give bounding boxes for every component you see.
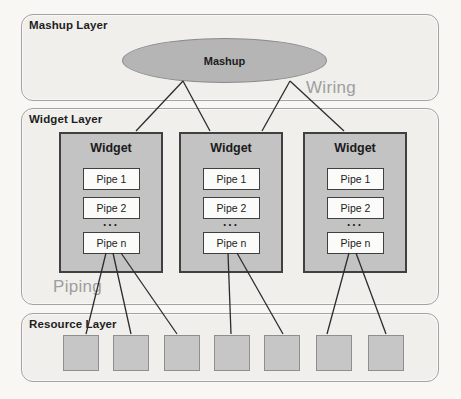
resource-node-6 [316, 335, 352, 371]
mashup-architecture-diagram: Mashup Layer Mashup Wiring Widget Layer … [0, 0, 461, 399]
mashup-layer-label: Mashup Layer [29, 19, 108, 31]
resource-layer: Resource Layer [21, 313, 439, 382]
widget-box-2: Widget Pipe 1 Pipe 2 ... Pipe n [179, 132, 283, 273]
mashup-layer: Mashup Layer Mashup Wiring [21, 14, 439, 101]
resource-layer-label: Resource Layer [29, 318, 117, 330]
resource-node-7 [368, 335, 404, 371]
resource-node-2 [113, 335, 149, 371]
widget-2-pipe-n: Pipe n [203, 232, 260, 254]
piping-annotation: Piping [53, 277, 102, 297]
widget-layer: Widget Layer Widget Pipe 1 Pipe 2 ... Pi… [21, 108, 439, 305]
widget-3-label: Widget [305, 141, 405, 155]
widget-box-1: Widget Pipe 1 Pipe 2 ... Pipe n [59, 132, 163, 273]
widget-2-pipe-1: Pipe 1 [203, 168, 260, 190]
widget-2-label: Widget [181, 141, 281, 155]
widget-2-pipe-ellipsis: ... [181, 215, 281, 229]
widget-3-pipe-ellipsis: ... [305, 215, 405, 229]
widget-box-3: Widget Pipe 1 Pipe 2 ... Pipe n [303, 132, 407, 273]
wiring-annotation: Wiring [306, 78, 356, 98]
widget-1-pipe-1: Pipe 1 [83, 168, 140, 190]
resource-node-5 [264, 335, 300, 371]
widget-layer-label: Widget Layer [29, 113, 102, 125]
resource-node-4 [214, 335, 250, 371]
mashup-node-label: Mashup [204, 55, 246, 67]
resource-node-3 [164, 335, 200, 371]
widget-3-pipe-n: Pipe n [327, 232, 384, 254]
widget-1-pipe-n: Pipe n [83, 232, 140, 254]
widget-3-pipe-1: Pipe 1 [327, 168, 384, 190]
widget-1-pipe-ellipsis: ... [61, 215, 161, 229]
widget-1-label: Widget [61, 141, 161, 155]
resource-node-1 [63, 335, 99, 371]
mashup-node: Mashup [122, 38, 327, 83]
